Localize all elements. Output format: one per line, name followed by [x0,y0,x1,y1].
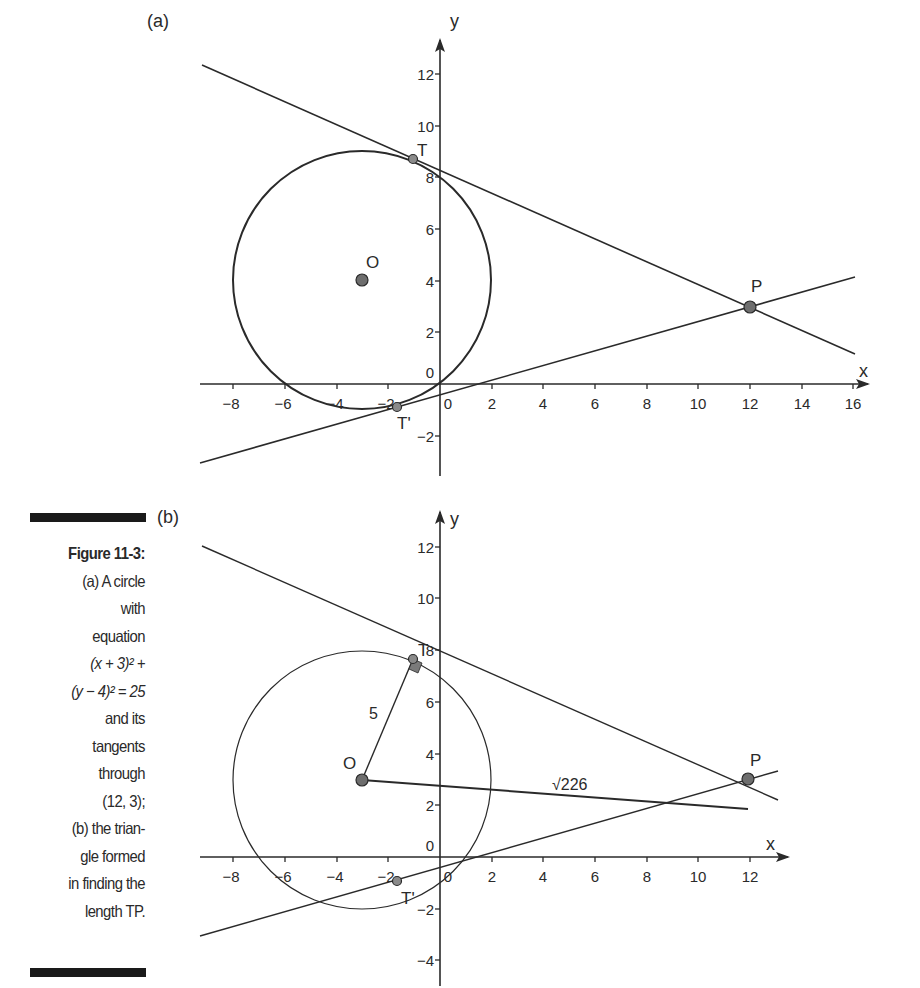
x-tick-label: 0 [444,395,452,412]
x-tick-label: 2 [488,395,496,412]
point-T-prime [393,403,402,412]
x-axis-label: x [766,834,775,854]
point-P [742,773,754,785]
x-tick-label: 10 [690,868,707,885]
point-O [356,274,368,286]
panel-a: (a) x y −8 −6 −4 −2 0 2 4 6 8 10 12 14 [147,11,868,476]
y-tick-label: 6 [426,694,434,711]
x-tick-label: 4 [539,868,547,885]
panel-a-label: (a) [147,11,169,31]
lower-tangent-line [200,277,855,463]
x-tick-label: 8 [643,868,651,885]
point-P [744,301,756,313]
x-tick-label: 10 [690,395,707,412]
label-OP-length: √226 [552,776,588,793]
panel-b: (b) x y −8 −6 −4 −2 0 2 4 6 8 10 12 [157,507,788,986]
label-P: P [751,277,762,296]
x-tick-label: 4 [539,395,547,412]
x-axis-label: x [859,361,868,381]
label-T: T [418,641,428,660]
y-axis-label: y [450,11,459,31]
x-tick-label: −8 [222,868,239,885]
point-T [409,655,418,664]
lower-tangent-line [200,771,778,936]
x-tick-label: 12 [742,868,759,885]
x-tick-label: 16 [845,395,862,412]
y-tick-label: 12 [417,66,434,83]
point-O [356,774,368,786]
y-tick-label: 4 [426,273,434,290]
label-O: O [366,253,379,272]
x-tick-label: 6 [591,395,599,412]
y-tick-labels: −4 −2 0 2 4 6 8 10 12 [417,539,434,969]
y-tick-label: −2 [417,901,434,918]
x-tick-label: −4 [326,395,343,412]
upper-tangent-line [202,65,855,354]
y-tick-label: 10 [417,590,434,607]
y-tick-label: 6 [426,221,434,238]
point-T-prime [393,877,402,886]
y-tick-label: 4 [426,746,434,763]
x-tick-label: 2 [488,868,496,885]
y-tick-label: −2 [417,428,434,445]
label-OT-length: 5 [369,705,378,722]
x-tick-label: 14 [794,395,811,412]
label-T-prime: T' [397,414,411,433]
x-tick-label: −8 [222,395,239,412]
x-tick-label: 6 [591,868,599,885]
y-tick-label: 2 [426,797,434,814]
y-tick-label: −4 [417,952,434,969]
x-tick-label: −6 [274,395,291,412]
x-tick-label: 8 [643,395,651,412]
y-tick-label: 2 [426,324,434,341]
y-tick-label: 12 [417,539,434,556]
label-T-prime: T' [401,889,415,908]
figure-canvas: (a) x y −8 −6 −4 −2 0 2 4 6 8 10 12 14 [0,0,920,988]
x-tick-labels: −8 −6 −4 −2 0 2 4 6 8 10 12 [222,868,758,885]
panel-b-label: (b) [157,507,179,527]
label-P: P [750,751,761,770]
y-tick-label: 0 [426,364,434,381]
x-tick-label: −4 [326,868,343,885]
y-tick-label: 10 [417,118,434,135]
y-axis-label: y [450,509,459,529]
x-tick-label: 12 [742,395,759,412]
label-T: T [417,141,427,160]
y-tick-label: 0 [426,837,434,854]
x-tick-labels: −8 −6 −4 −2 0 2 4 6 8 10 12 14 16 [222,395,861,412]
label-O: O [343,754,356,773]
